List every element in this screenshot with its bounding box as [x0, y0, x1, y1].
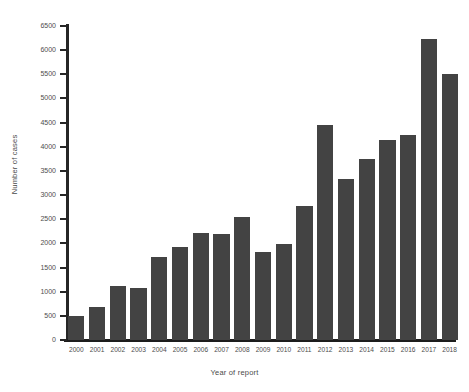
x-axis-tick-label: 2018: [439, 346, 460, 353]
y-axis-tick-label: 2000: [22, 239, 56, 247]
x-axis-tick-label: 2014: [356, 346, 377, 353]
bar: [130, 288, 146, 340]
x-axis-tick-label: 2007: [211, 346, 232, 353]
x-axis-tick-label: 2005: [170, 346, 191, 353]
bar: [276, 244, 292, 340]
bar: [234, 217, 250, 340]
y-axis-tick-label: 6500: [22, 22, 56, 30]
y-axis-tick-label-text: 1000: [26, 288, 56, 295]
y-axis-tick-label-text: 4000: [26, 143, 56, 150]
x-axis-title: Year of report: [0, 368, 469, 377]
x-axis-tick-label: 2017: [419, 346, 440, 353]
bar: [379, 140, 395, 340]
y-axis-title: Number of cases: [10, 105, 19, 225]
y-axis-tick-label: 500: [22, 312, 56, 320]
y-axis-tick-label: 1500: [22, 264, 56, 272]
y-axis-tick-label-text: 2000: [26, 239, 56, 246]
y-axis-tick-label: 4500: [22, 119, 56, 127]
x-axis-tick-label: 2003: [128, 346, 149, 353]
bar: [89, 307, 105, 340]
x-axis-tick-label: 2016: [398, 346, 419, 353]
y-axis-tick-label-text: 3000: [26, 191, 56, 198]
x-axis-tick-label: 2013: [336, 346, 357, 353]
x-axis-tick-label: 2002: [107, 346, 128, 353]
y-axis-tick-label-text: 1500: [26, 264, 56, 271]
y-axis-tick-label: 3500: [22, 167, 56, 175]
bar: [296, 206, 312, 340]
bar: [68, 316, 84, 340]
x-axis-tick-label: 2010: [273, 346, 294, 353]
x-axis-tick-label: 2004: [149, 346, 170, 353]
x-axis-tick-label: 2011: [294, 346, 315, 353]
bar: [255, 252, 271, 340]
bar: [338, 179, 354, 340]
x-axis-tick-label: 2012: [315, 346, 336, 353]
bar: [193, 233, 209, 340]
x-axis-tick-label: 2000: [66, 346, 87, 353]
bar: [172, 247, 188, 340]
y-axis-tick-label: 3000: [22, 191, 56, 199]
bar: [151, 257, 167, 340]
bar: [317, 125, 333, 340]
y-axis-tick-label-text: 5500: [26, 70, 56, 77]
bar: [110, 286, 126, 340]
x-axis-tick-label: 2001: [87, 346, 108, 353]
bar: [421, 39, 437, 340]
x-axis-tick-label: 2008: [232, 346, 253, 353]
y-axis-tick-label-text: 5000: [26, 94, 56, 101]
y-axis-tick-label: 0: [22, 336, 56, 344]
plot-area: [66, 26, 460, 340]
x-axis-tick-label: 2006: [190, 346, 211, 353]
y-axis-tick-label-text: 6000: [26, 46, 56, 53]
y-axis-tick-label: 5000: [22, 94, 56, 102]
y-axis-tick-label-text: 6500: [26, 22, 56, 29]
y-axis-tick-label-text: 3500: [26, 167, 56, 174]
y-axis-tick-label: 1000: [22, 288, 56, 296]
bar: [442, 74, 458, 340]
y-axis-tick-label-text: 0: [26, 336, 56, 343]
y-axis-tick-label: 5500: [22, 70, 56, 78]
bar: [400, 135, 416, 340]
bar-chart: Number of cases 050010001500200025003000…: [0, 0, 469, 392]
bar: [213, 234, 229, 340]
y-axis-tick-label-text: 4500: [26, 119, 56, 126]
y-axis-tick-label: 4000: [22, 143, 56, 151]
y-axis-tick-label-text: 500: [26, 312, 56, 319]
y-axis-tick-label: 2500: [22, 215, 56, 223]
y-axis-tick-label: 6000: [22, 46, 56, 54]
bar: [359, 159, 375, 340]
x-axis-tick-label: 2009: [253, 346, 274, 353]
y-axis-tick-label-text: 2500: [26, 215, 56, 222]
x-axis-tick-label: 2015: [377, 346, 398, 353]
